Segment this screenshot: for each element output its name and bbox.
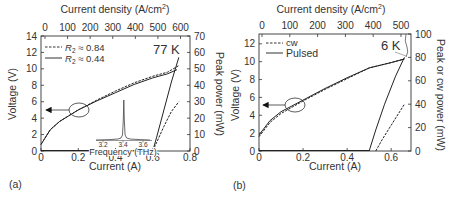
panel-b-right-ticks: 020406080100 xyxy=(408,29,432,157)
series-line xyxy=(259,59,404,135)
series-line xyxy=(259,59,404,137)
series-line xyxy=(376,104,405,151)
panel-a-top-axis-title: Current density (A/cm2) xyxy=(61,3,170,15)
tick-label: 10 xyxy=(244,56,256,67)
inset-spectrum-curve xyxy=(96,100,150,140)
tick-label: 4 xyxy=(249,110,255,121)
tick-label: 40 xyxy=(415,99,427,110)
tick-label: 70 xyxy=(194,31,206,42)
tick-label: 0 xyxy=(31,146,37,157)
tick-label: 10 xyxy=(194,129,206,140)
tick-label: 4 xyxy=(31,113,37,124)
panel-a-legend: R2 ≈ 0.84 R2 ≈ 0.44 xyxy=(45,42,104,65)
panel-a-right-axis-title: Peak power (mW) xyxy=(214,52,226,136)
tick-label: 20 xyxy=(194,113,206,124)
tick-label: 60 xyxy=(194,47,206,58)
panel-b-legend: cw Pulsed xyxy=(266,37,318,59)
tick-label: 0 xyxy=(42,22,48,33)
tick-label: 300 xyxy=(104,22,121,33)
panel-a-series xyxy=(41,57,179,151)
panel-a-inset-spectrum: 3.23.43.6 Frequency (THz) xyxy=(89,100,157,157)
tick-label: 6 xyxy=(249,92,255,103)
tick-label: 0 xyxy=(259,20,265,31)
tick-label: 400 xyxy=(365,20,382,31)
tick-label: 60 xyxy=(415,75,427,86)
tick-label: 12 xyxy=(244,38,256,49)
tick-label: 100 xyxy=(415,29,432,40)
series-line xyxy=(153,57,179,151)
tick-label: 100 xyxy=(59,22,76,33)
tick-label: 20 xyxy=(415,122,427,133)
panel-a-label: (a) xyxy=(9,178,22,190)
tick-label: 100 xyxy=(281,20,298,31)
tick-label: 10 xyxy=(26,63,38,74)
panel-b-series xyxy=(259,57,404,151)
tick-label: 14 xyxy=(26,31,38,42)
tick-label: 80 xyxy=(415,52,427,63)
tick-label: 0.6 xyxy=(384,152,398,163)
tick-label: 6 xyxy=(31,96,37,107)
tick-label: 8 xyxy=(31,80,37,91)
tick-label: 200 xyxy=(82,22,99,33)
tick-label: 40 xyxy=(194,80,206,91)
panel-b: Current density (A/cm2) 0100200300400500… xyxy=(229,3,447,191)
tick-label: 600 xyxy=(172,22,189,33)
tick-label: 0 xyxy=(249,146,255,157)
panel-b-left-axis-title: Voltage (V) xyxy=(229,69,241,121)
panel-a-left-axis-title: Voltage (V) xyxy=(6,68,18,120)
panel-b-label: (b) xyxy=(233,179,246,191)
panel-a-bottom-axis-title: Current (A) xyxy=(89,160,141,172)
panel-b-top-axis-title: Current density (A/cm2) xyxy=(277,3,386,15)
tick-label: 50 xyxy=(194,63,206,74)
tick-label: 200 xyxy=(309,20,326,31)
tick-label: 0 xyxy=(256,152,262,163)
tick-label: 0 xyxy=(38,152,44,163)
tick-label: 500 xyxy=(393,20,410,31)
panel-b-break-mark xyxy=(405,34,408,57)
panel-b-bottom-axis-title: Current (A) xyxy=(309,160,361,172)
figure: Current density (A/cm2) 0100200300400500… xyxy=(0,0,453,200)
tick-label: 0 xyxy=(415,146,421,157)
tick-label: 2 xyxy=(249,128,255,139)
tick-label: 8 xyxy=(249,74,255,85)
series-line xyxy=(369,57,404,151)
legend-label-pulsed: Pulsed xyxy=(286,47,318,59)
series-line xyxy=(153,102,179,151)
tick-label: 500 xyxy=(150,22,167,33)
series-line xyxy=(41,70,177,145)
tick-label: 2 xyxy=(31,129,37,140)
panel-a: Current density (A/cm2) 0100200300400500… xyxy=(6,3,226,190)
panel-b-right-axis-title: Peak or cw power (mW) xyxy=(435,39,447,151)
inset-xlabel: Frequency (THz) xyxy=(89,147,157,157)
tick-label: 0.8 xyxy=(183,152,197,163)
panel-a-temperature: 77 K xyxy=(153,42,180,57)
legend-label-r2-044: R2 ≈ 0.44 xyxy=(65,53,104,65)
tick-label: 300 xyxy=(337,20,354,31)
tick-label: 0.2 xyxy=(71,152,85,163)
tick-label: 30 xyxy=(194,96,206,107)
tick-label: 12 xyxy=(26,47,38,58)
panel-b-temperature: 6 K xyxy=(381,38,401,53)
tick-label: 400 xyxy=(127,22,144,33)
